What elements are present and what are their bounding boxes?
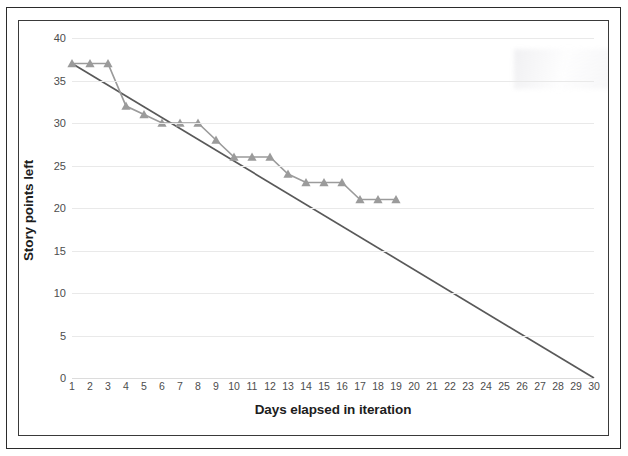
x-tick-label: 14 xyxy=(300,381,312,392)
x-tick-label: 26 xyxy=(516,381,528,392)
x-tick-label: 11 xyxy=(247,381,258,392)
gridline xyxy=(72,81,594,82)
x-tick-label: 25 xyxy=(498,381,510,392)
x-tick-label: 24 xyxy=(480,381,492,392)
series-actual-line xyxy=(72,64,396,200)
x-tick-label: 28 xyxy=(552,381,564,392)
x-tick-label: 30 xyxy=(588,381,600,392)
x-tick-label: 7 xyxy=(177,381,183,392)
x-axis-title: Days elapsed in iteration xyxy=(72,402,594,417)
y-tick-label: 30 xyxy=(40,118,66,129)
x-tick-label: 4 xyxy=(123,381,129,392)
x-tick-label: 13 xyxy=(282,381,294,392)
x-tick-label: 15 xyxy=(318,381,330,392)
y-tick-label: 35 xyxy=(40,75,66,86)
y-tick-label: 0 xyxy=(40,373,66,384)
y-tick-label: 15 xyxy=(40,245,66,256)
x-tick-label: 20 xyxy=(408,381,420,392)
x-tick-label: 18 xyxy=(372,381,384,392)
gridline xyxy=(72,166,594,167)
gridline xyxy=(72,38,594,39)
x-tick-label: 1 xyxy=(69,381,75,392)
x-tick-label: 21 xyxy=(426,381,438,392)
x-axis-ticks: 1234567891011121314151617181920212223242… xyxy=(72,381,594,399)
data-point-marker xyxy=(121,101,130,109)
gridline xyxy=(72,208,594,209)
x-tick-label: 17 xyxy=(354,381,366,392)
gridline xyxy=(72,251,594,252)
y-axis-title-label: Story points left xyxy=(22,159,37,260)
y-tick-label: 20 xyxy=(40,203,66,214)
x-tick-label: 23 xyxy=(462,381,474,392)
y-tick-label: 40 xyxy=(40,33,66,44)
x-axis-title-label: Days elapsed in iteration xyxy=(255,402,412,417)
x-tick-label: 2 xyxy=(87,381,93,392)
gridline xyxy=(72,336,594,337)
x-tick-label: 8 xyxy=(195,381,201,392)
x-tick-label: 5 xyxy=(141,381,147,392)
data-point-marker xyxy=(139,110,148,118)
x-tick-label: 3 xyxy=(105,381,111,392)
plot-area xyxy=(72,38,594,378)
gridline xyxy=(72,293,594,294)
x-tick-label: 19 xyxy=(390,381,402,392)
ideal-burndown-line xyxy=(72,64,594,379)
x-tick-label: 27 xyxy=(534,381,546,392)
x-tick-label: 16 xyxy=(336,381,348,392)
x-tick-label: 29 xyxy=(570,381,582,392)
gridline xyxy=(72,123,594,124)
x-tick-label: 22 xyxy=(444,381,456,392)
actual-burndown-line xyxy=(72,64,396,200)
x-tick-label: 9 xyxy=(213,381,219,392)
gridline xyxy=(72,378,594,379)
y-tick-label: 25 xyxy=(40,160,66,171)
y-tick-label: 5 xyxy=(40,330,66,341)
chart-page: Story points left 0510152025303540 12345… xyxy=(0,0,628,456)
series-ideal-burndown xyxy=(72,64,594,379)
y-tick-label: 10 xyxy=(40,288,66,299)
x-tick-label: 10 xyxy=(228,381,240,392)
x-tick-label: 12 xyxy=(264,381,276,392)
y-axis-ticks: 0510152025303540 xyxy=(36,0,66,456)
x-tick-label: 6 xyxy=(159,381,165,392)
